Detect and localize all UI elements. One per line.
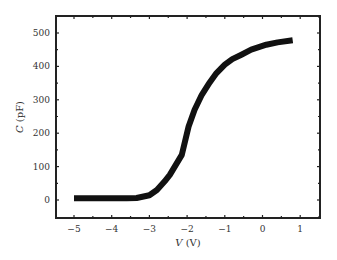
cv-curve	[74, 40, 293, 198]
tick-label: −4	[105, 224, 119, 234]
tick-label: −1	[218, 224, 231, 234]
x-axis-label: V (V)	[175, 237, 201, 248]
y-axis-label: C (pF)	[14, 101, 25, 133]
tick-label: 200	[33, 128, 50, 138]
tick-label: 100	[33, 162, 50, 172]
tick-label: 300	[33, 95, 50, 105]
tick-label: −3	[143, 224, 157, 234]
tick-label: 0	[260, 224, 266, 234]
cv-chart: −5−4−3−2−1010100200300400500 V (V) C (pF…	[0, 0, 337, 260]
tick-label: 500	[33, 28, 50, 38]
plot-frame	[56, 16, 320, 218]
tick-label: −2	[180, 224, 193, 234]
tick-label: 400	[33, 61, 50, 71]
tick-label: −5	[67, 224, 81, 234]
tick-label: 0	[44, 195, 50, 205]
tick-label: 1	[297, 224, 303, 234]
